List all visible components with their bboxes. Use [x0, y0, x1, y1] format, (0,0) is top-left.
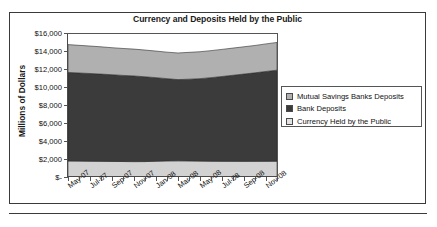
legend-label: Bank Deposits — [297, 104, 346, 113]
y-axis-tick-label: $4,000 — [39, 137, 62, 146]
x-axis-tick-mark — [134, 177, 135, 181]
legend-item[interactable]: Currency Held by the Public — [286, 115, 418, 127]
x-axis-tick-mark — [255, 177, 256, 181]
legend-item[interactable]: Mutual Savings Banks Deposits — [286, 90, 418, 102]
chart-figure: Currency and Deposits Held by the Public… — [0, 0, 437, 227]
x-axis-tick-mark — [266, 177, 267, 181]
y-axis-tick-label: $8,000 — [39, 101, 62, 110]
legend-label: Mutual Savings Banks Deposits — [297, 92, 404, 101]
x-axis-tick-mark — [233, 177, 234, 181]
x-axis-tick-mark — [277, 177, 278, 181]
plot-top-border — [67, 33, 278, 34]
legend-swatch-icon — [286, 118, 293, 125]
y-axis-tick-label: $2,000 — [39, 155, 62, 164]
y-axis-tick-label: $10,000 — [35, 83, 62, 92]
x-axis-tick-mark — [112, 177, 113, 181]
x-axis-tick-mark — [156, 177, 157, 181]
legend-label: Currency Held by the Public — [297, 117, 391, 126]
x-axis-tick-mark — [244, 177, 245, 181]
x-axis-tick-mark — [123, 177, 124, 181]
x-axis-tick-mark — [222, 177, 223, 181]
x-axis-tick-mark — [145, 177, 146, 181]
y-axis-tick-label: $- — [55, 173, 62, 182]
y-axis-tick-label: $6,000 — [39, 119, 62, 128]
x-axis-tick-mark — [101, 177, 102, 181]
footer-rule — [9, 213, 427, 214]
x-axis-tick-mark — [200, 177, 201, 181]
x-axis-tick-mark — [68, 177, 69, 181]
x-axis-tick-mark — [167, 177, 168, 181]
x-axis-tick-mark — [90, 177, 91, 181]
legend-item[interactable]: Bank Deposits — [286, 103, 418, 115]
y-axis-tick-label: $14,000 — [35, 47, 62, 56]
plot-axes — [67, 33, 277, 177]
x-axis-tick-mark — [189, 177, 190, 181]
x-axis-tick-mark — [79, 177, 80, 181]
y-axis-tick-labels: $16,000$14,000$12,000$10,000$8,000$6,000… — [18, 0, 64, 200]
chart-title: Currency and Deposits Held by the Public — [95, 14, 340, 24]
x-axis-tick-mark — [178, 177, 179, 181]
y-axis-tick-label: $16,000 — [35, 29, 62, 38]
y-axis-tick-label: $12,000 — [35, 65, 62, 74]
chart-legend: Mutual Savings Banks DepositsBank Deposi… — [281, 86, 422, 127]
x-axis-tick-mark — [211, 177, 212, 181]
legend-swatch-icon — [286, 105, 293, 112]
legend-swatch-icon — [286, 93, 293, 100]
plot-right-border — [277, 33, 278, 178]
